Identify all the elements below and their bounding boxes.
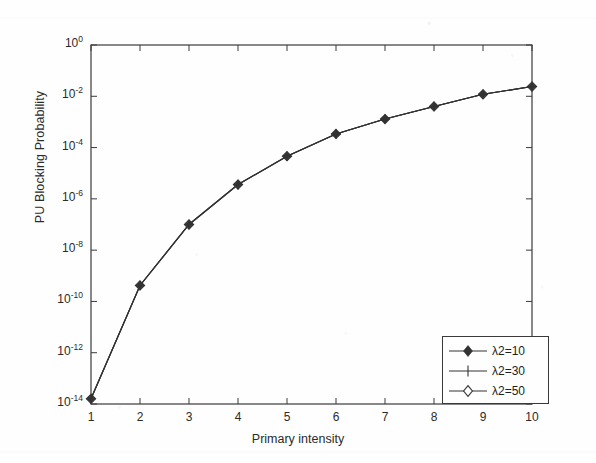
x-tick-label-1: 2 — [128, 410, 152, 424]
legend-label-0: λ2=10 — [492, 344, 525, 358]
y-tick-label-3: 10-6 — [39, 190, 83, 204]
legend-entry-1[interactable]: λ2=30 — [443, 361, 548, 381]
legend-marker-filled-diamond — [447, 343, 489, 359]
legend-entry-2[interactable]: λ2=50 — [443, 381, 548, 401]
y-tick-label-6: 10-12 — [39, 344, 83, 358]
legend-label-2: λ2=50 — [492, 384, 525, 398]
y-tick-label-5: 10-10 — [39, 292, 83, 306]
x-tick-label-5: 6 — [324, 410, 348, 424]
x-tick-label-0: 1 — [79, 410, 103, 424]
legend-box[interactable]: λ2=10 λ2=30 λ2=50 — [442, 336, 549, 404]
legend-marker-open-diamond — [447, 383, 489, 399]
y-tick-label-2: 10-4 — [39, 139, 83, 153]
legend-entry-0[interactable]: λ2=10 — [443, 341, 548, 361]
y-tick-label-7: 10-14 — [39, 395, 83, 409]
x-tick-label-6: 7 — [373, 410, 397, 424]
x-tick-label-4: 5 — [275, 410, 299, 424]
x-tick-label-9: 10 — [520, 410, 544, 424]
y-tick-label-0: 100 — [39, 36, 83, 50]
x-tick-label-7: 8 — [422, 410, 446, 424]
x-tick-label-2: 3 — [177, 410, 201, 424]
y-axis-title: PU Blocking Probability — [33, 47, 47, 267]
x-axis-title: Primary intensity — [0, 432, 596, 446]
x-tick-label-8: 9 — [471, 410, 495, 424]
y-tick-label-4: 10-8 — [39, 241, 83, 255]
figure-canvas: PU Blocking Probability Primary intensit… — [0, 0, 596, 463]
x-tick-label-3: 4 — [226, 410, 250, 424]
y-tick-label-1: 10-2 — [39, 87, 83, 101]
legend-label-1: λ2=30 — [492, 364, 525, 378]
legend-marker-plus — [447, 363, 489, 379]
